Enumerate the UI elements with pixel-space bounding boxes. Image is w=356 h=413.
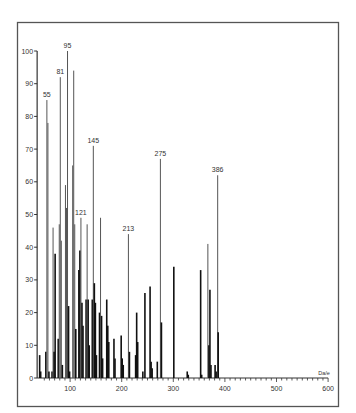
y-tick-label: 30 bbox=[25, 276, 33, 283]
peak-label: 55 bbox=[43, 91, 51, 98]
y-tick-label: 20 bbox=[25, 309, 33, 316]
y-tick-label: 50 bbox=[25, 211, 33, 218]
y-tick-label: 60 bbox=[25, 178, 33, 185]
y-tick-label: 0 bbox=[29, 375, 33, 382]
peak-label: 121 bbox=[75, 209, 87, 216]
x-axis-label: Da/e bbox=[318, 370, 330, 376]
peak-bars bbox=[40, 51, 219, 378]
y-axis: 0102030405060708090100 bbox=[21, 48, 37, 382]
y-tick-label: 80 bbox=[25, 113, 33, 120]
y-tick-label: 100 bbox=[21, 48, 33, 55]
peak-label: 213 bbox=[123, 225, 135, 232]
x-tick-label: 600 bbox=[322, 385, 334, 392]
x-tick-label: 100 bbox=[64, 385, 76, 392]
x-axis: 100200300400500600 bbox=[37, 378, 334, 392]
peak-label: 275 bbox=[155, 150, 167, 157]
peak-label: 81 bbox=[56, 68, 64, 75]
x-tick-label: 500 bbox=[271, 385, 283, 392]
peak-labels: 558195121145213275386 bbox=[43, 42, 224, 232]
y-tick-label: 70 bbox=[25, 146, 33, 153]
y-tick-label: 90 bbox=[25, 80, 33, 87]
peak-label: 386 bbox=[212, 166, 224, 173]
peak-label: 145 bbox=[87, 137, 99, 144]
mass-spectrum-chart: 0102030405060708090100 10020030040050060… bbox=[0, 0, 356, 413]
peak-label: 95 bbox=[64, 42, 72, 49]
y-tick-label: 40 bbox=[25, 244, 33, 251]
x-tick-label: 300 bbox=[167, 385, 179, 392]
y-tick-label: 10 bbox=[25, 342, 33, 349]
x-tick-label: 200 bbox=[116, 385, 128, 392]
x-tick-label: 400 bbox=[219, 385, 231, 392]
